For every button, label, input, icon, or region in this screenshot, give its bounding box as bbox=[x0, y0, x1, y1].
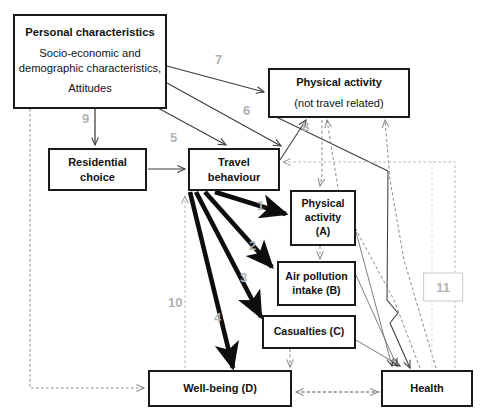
residential-choice-line1: Residential bbox=[68, 155, 127, 170]
personal-characteristics-line3: Attitudes bbox=[68, 81, 112, 96]
physical-activity-ntr-title: Physical activity bbox=[296, 75, 382, 90]
edge-label-4: 4 bbox=[214, 310, 221, 325]
physical-activity-a-line3: (A) bbox=[316, 225, 331, 239]
physical-activity-ntr-subtitle: (not travel related) bbox=[294, 96, 383, 111]
physical-activity-a-line2: activity bbox=[305, 211, 342, 225]
health-node[interactable]: Health bbox=[381, 370, 473, 407]
edge-label-1: 1 bbox=[257, 198, 264, 213]
arrow-casualties-to-health bbox=[356, 340, 400, 366]
edge-label-3: 3 bbox=[240, 270, 247, 285]
air-pollution-intake-b-line1: Air pollution bbox=[285, 270, 347, 284]
personal-characteristics-line1: Socio-economic and bbox=[39, 46, 140, 61]
edge-label-5: 5 bbox=[170, 130, 177, 145]
casualties-c-line1: Casualties (C) bbox=[274, 325, 345, 339]
air-pollution-intake-b-line2: intake (B) bbox=[292, 284, 340, 298]
travel-behaviour-line1: Travel bbox=[218, 155, 250, 170]
edge-label-7: 7 bbox=[215, 52, 222, 67]
edge-label-11: 11 bbox=[423, 273, 463, 302]
personal-characteristics-title: Personal characteristics bbox=[25, 25, 154, 40]
physical-activity-a-line1: Physical bbox=[302, 197, 345, 211]
arrow-personal-to-travel-behaviour-5 bbox=[158, 108, 226, 145]
arrow-physical-activity-ntr-to-physical-activity-a bbox=[320, 120, 322, 186]
edge-label-2: 2 bbox=[249, 238, 256, 253]
well-being-d-line1: Well-being (D) bbox=[183, 381, 257, 396]
edge-label-10: 10 bbox=[168, 295, 182, 310]
edge-label-9: 9 bbox=[82, 111, 89, 126]
air-pollution-intake-b-node[interactable]: Air pollution intake (B) bbox=[277, 261, 356, 306]
edge-label-8: 8 bbox=[302, 119, 309, 134]
personal-characteristics-line2: demographic characteristics, bbox=[19, 61, 161, 76]
residential-choice-node[interactable]: Residential choice bbox=[48, 148, 147, 191]
health-line1: Health bbox=[410, 381, 444, 396]
arrow-personal-to-travel-behaviour-6 bbox=[167, 83, 281, 146]
arrow-health-to-physical-activity-ntr-b bbox=[385, 120, 436, 368]
conceptual-framework-diagram: Personal characteristics Socio-economic … bbox=[0, 0, 487, 419]
casualties-c-node[interactable]: Casualties (C) bbox=[262, 315, 356, 349]
travel-behaviour-node[interactable]: Travel behaviour bbox=[188, 148, 280, 191]
residential-choice-line2: choice bbox=[80, 170, 115, 185]
personal-characteristics-node[interactable]: Personal characteristics Socio-economic … bbox=[13, 14, 167, 109]
arrow-travel-to-physical-activity-a bbox=[215, 192, 286, 214]
edge-label-6: 6 bbox=[243, 103, 250, 118]
physical-activity-a-node[interactable]: Physical activity (A) bbox=[290, 190, 356, 246]
travel-behaviour-line2: behaviour bbox=[208, 170, 261, 185]
well-being-d-node[interactable]: Well-being (D) bbox=[148, 370, 292, 407]
physical-activity-not-travel-related-node[interactable]: Physical activity (not travel related) bbox=[268, 68, 410, 118]
arrow-personal-to-physical-activity-ntr bbox=[167, 66, 264, 92]
